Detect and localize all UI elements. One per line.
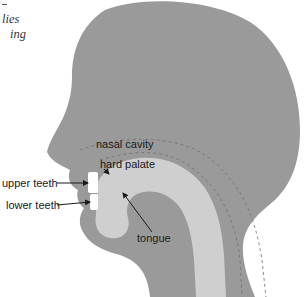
label-upper-teeth: upper teeth xyxy=(2,177,58,189)
lower-teeth-shape xyxy=(90,194,98,210)
head-silhouette xyxy=(47,1,300,297)
upper-teeth-shape xyxy=(88,172,98,193)
label-lower-teeth: lower teeth xyxy=(6,199,60,211)
label-tongue: tongue xyxy=(137,232,171,244)
label-hard-palate: hard palate xyxy=(100,158,155,170)
label-nasal-cavity: nasal cavity xyxy=(96,138,153,150)
head-cross-section-diagram xyxy=(0,0,307,297)
